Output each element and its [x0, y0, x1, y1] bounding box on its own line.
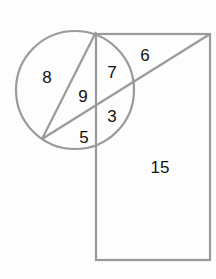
circle-shape — [16, 31, 134, 149]
region-7-label: 7 — [107, 63, 116, 82]
region-15-label: 15 — [151, 158, 170, 177]
region-3-label: 3 — [107, 107, 116, 126]
region-6-label: 6 — [140, 46, 149, 65]
region-9-label: 9 — [78, 87, 87, 106]
region-5-label: 5 — [79, 128, 88, 147]
venn-number-diagram: 8 7 6 9 3 5 15 — [0, 0, 216, 279]
diagonal-line — [42, 34, 210, 139]
region-8-label: 8 — [42, 68, 51, 87]
